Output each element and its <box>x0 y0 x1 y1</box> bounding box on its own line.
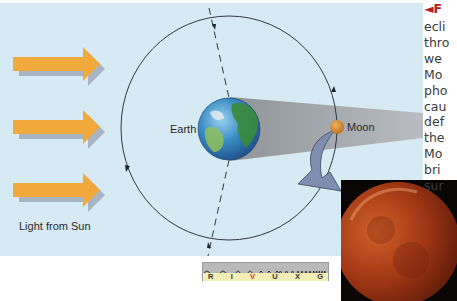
sunlight-arrow-2 <box>13 110 105 149</box>
sun-light-label: Light from Sun <box>19 220 91 232</box>
caption-line: ecli <box>424 20 446 34</box>
orbit-arrow-icon <box>331 86 336 92</box>
axis-arrow-icon <box>212 24 216 30</box>
spectrum-bar: R I V U X G <box>202 262 329 281</box>
caption-line: we <box>424 52 442 66</box>
moon-label: Moon <box>347 121 375 133</box>
figure-caption: ◄F ecli thro we Mo pho cau def the Mo br… <box>424 0 457 200</box>
band-u: U <box>272 273 277 281</box>
band-i: I <box>231 273 233 281</box>
caption-line: pho <box>424 84 448 98</box>
earth-label: Earth <box>170 123 196 135</box>
caption-line: Mo <box>424 68 442 82</box>
caption-line: bri <box>424 163 441 177</box>
spectrum-letters: R I V U X G <box>203 273 328 281</box>
earth-globe <box>198 98 260 160</box>
caption-line: thro <box>424 36 449 50</box>
caption-line: sur <box>424 179 444 193</box>
earth-axis <box>208 160 229 256</box>
caption-line: ◄F <box>424 2 442 16</box>
band-v-active: V <box>250 273 255 281</box>
moon-sphere <box>330 120 344 134</box>
sunlight-arrow-3 <box>13 173 105 212</box>
caption-line: def <box>424 115 444 129</box>
spectrum-wave <box>203 263 328 273</box>
earth-axis <box>209 8 229 98</box>
band-r: R <box>208 273 213 281</box>
band-g: G <box>317 273 323 281</box>
caption-line: Mo <box>424 147 442 161</box>
band-x: X <box>295 273 300 281</box>
caption-line: the <box>424 131 445 145</box>
sunlight-arrow-1 <box>13 47 105 86</box>
caption-line: cau <box>424 100 446 114</box>
